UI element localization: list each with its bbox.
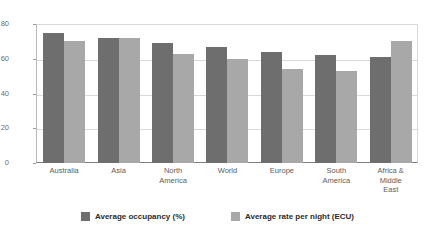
- legend-swatch-icon: [81, 212, 90, 221]
- bar-group: [309, 24, 363, 163]
- bar-group: [91, 24, 145, 163]
- bar-chart: 806040200 AustraliaAsiaNorthAmericaWorld…: [0, 0, 435, 235]
- bar-occupancy[interactable]: [370, 57, 391, 163]
- legend-label: Average rate per night (ECU): [245, 212, 354, 221]
- bar-rate[interactable]: [64, 41, 85, 163]
- bar-group: [37, 24, 91, 163]
- legend-label: Average occupancy (%): [95, 212, 185, 221]
- bar-group: [146, 24, 200, 163]
- chart-legend: Average occupancy (%)Average rate per ni…: [0, 212, 435, 221]
- bar-occupancy[interactable]: [206, 47, 227, 163]
- x-axis-label: World: [200, 166, 254, 195]
- x-axis-label: Asia: [91, 166, 145, 195]
- bar-rate[interactable]: [227, 59, 248, 163]
- x-axis-label: SouthAmerica: [309, 166, 363, 195]
- bar-rate[interactable]: [336, 71, 357, 163]
- bar-rate[interactable]: [282, 69, 303, 163]
- x-axis-label: Europe: [255, 166, 309, 195]
- x-axis-label: Australia: [37, 166, 91, 195]
- y-axis-tick-mark: [33, 163, 36, 164]
- bar-rate[interactable]: [391, 41, 412, 163]
- bar-rate[interactable]: [173, 54, 194, 163]
- legend-item[interactable]: Average rate per night (ECU): [231, 212, 354, 221]
- bar-occupancy[interactable]: [43, 33, 64, 163]
- x-axis-label: Africa &MiddleEast: [364, 166, 418, 195]
- x-axis-label: NorthAmerica: [146, 166, 200, 195]
- bar-occupancy[interactable]: [315, 55, 336, 163]
- bar-occupancy[interactable]: [261, 52, 282, 163]
- x-axis-labels: AustraliaAsiaNorthAmericaWorldEuropeSout…: [37, 166, 418, 195]
- bar-group: [364, 24, 418, 163]
- legend-swatch-icon: [231, 212, 240, 221]
- bar-occupancy[interactable]: [98, 38, 119, 163]
- legend-item[interactable]: Average occupancy (%): [81, 212, 185, 221]
- bar-occupancy[interactable]: [152, 43, 173, 163]
- bar-groups: [37, 24, 418, 163]
- bar-group: [255, 24, 309, 163]
- bar-rate[interactable]: [119, 38, 140, 163]
- bar-group: [200, 24, 254, 163]
